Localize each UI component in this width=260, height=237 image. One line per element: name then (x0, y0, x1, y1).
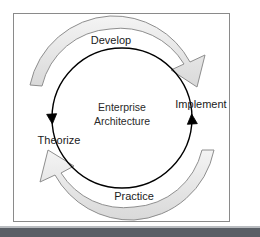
theorize-arrowhead-icon (47, 114, 58, 125)
phase-label-theorize: Theorize (38, 134, 81, 146)
phase-label-practice: Practice (114, 190, 154, 202)
phase-label-develop: Develop (91, 34, 131, 46)
bottom-bar (0, 228, 260, 237)
figure-canvas: Develop Implement Practice Theorize Ente… (0, 0, 260, 237)
enterprise-architecture-cycle: Develop Implement Practice Theorize Ente… (14, 14, 231, 223)
center-label-line2: Architecture (94, 115, 150, 127)
diagram-frame: Develop Implement Practice Theorize Ente… (13, 13, 230, 222)
implement-arrowhead-icon (187, 114, 198, 125)
phase-label-implement: Implement (175, 98, 226, 110)
center-label-line1: Enterprise (98, 101, 146, 113)
